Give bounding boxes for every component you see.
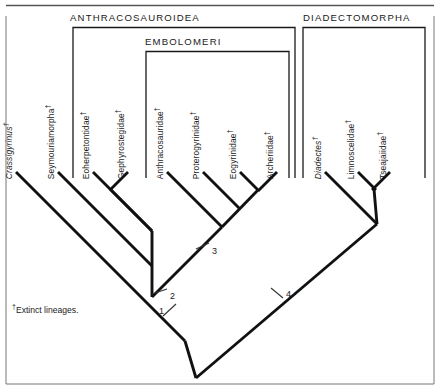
internal-node4-to-root [196, 224, 377, 378]
branch-eogyrinidae [240, 172, 258, 190]
node-tick-4 [271, 288, 283, 298]
branch-seymouriamorpha [58, 172, 152, 266]
tip-label-anthracosauridae: Anthracosauridae† [153, 107, 164, 179]
clade-label-diadectomorpha: DIADECTOMORPHA [303, 13, 411, 23]
node-number-2: 2 [170, 292, 175, 301]
cladogram-figure: ANTHRACOSAUROIDEA EMBOLOMERI DIADECTOMOR… [0, 0, 439, 390]
root-stem [185, 341, 196, 378]
internal-eoherpeton-gephyrostegid [110, 189, 152, 231]
tip-label-eoherpetontidae: Eoherpetontidae† [79, 111, 90, 179]
tip-label-proterogyrinidae: Proterogyrinidae† [189, 111, 200, 179]
node-ticks [152, 243, 283, 316]
node-number-1: 1 [159, 307, 164, 316]
node-tick-1 [163, 304, 176, 316]
legend-extinct-lineages: †Extinct lineages. [12, 303, 78, 314]
node-number-4: 4 [286, 290, 291, 299]
tip-label-diadectes: Diadectes† [311, 137, 322, 180]
tip-label-eogyrinidae: Eogyrinidae† [226, 129, 237, 179]
internal-diadecto-apex [374, 189, 377, 224]
clade-label-anthracosauroidea: ANTHRACOSAUROIDEA [70, 13, 200, 23]
tip-label-archeriidae: Archeriidae† [263, 131, 274, 179]
branch-diadectes [325, 172, 377, 224]
branch-anthracosauridae [167, 172, 222, 227]
cladogram-canvas [0, 0, 439, 390]
tip-label-tseajaiidae: Tseajaiidae† [376, 132, 387, 180]
internal-node3-to-node2 [152, 227, 222, 297]
node-number-3: 3 [212, 247, 217, 256]
tip-label-gephyrostegidae: Gephyrostegidae† [114, 109, 125, 179]
clade-label-embolomeri: EMBOLOMERI [145, 37, 222, 47]
clade-bracket-anthracosauroidea [73, 28, 295, 179]
tip-label-crassigyrinus: Crassigyrinus† [2, 122, 13, 179]
tip-label-limnoscelidae: Limnoscelidae† [344, 120, 355, 180]
outer-frame [6, 16, 434, 384]
tip-label-seymouriamorpha: Seymouriamorpha† [44, 104, 55, 179]
tree-branches [16, 172, 390, 378]
